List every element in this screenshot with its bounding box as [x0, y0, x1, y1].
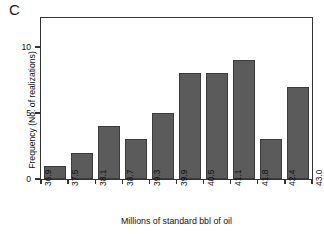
x-tick-mark: [149, 180, 150, 184]
x-tick-mark: [203, 180, 204, 184]
x-tick-label: 38.7: [126, 170, 134, 186]
panel-label-c: C: [9, 2, 20, 17]
x-tick-label: 36.9: [44, 170, 52, 186]
x-axis-title: Millions of standard bbl of oil: [40, 216, 313, 226]
x-tick-mark: [95, 180, 96, 184]
x-tick-mark: [284, 180, 285, 184]
x-tick-mark: [311, 180, 312, 184]
x-tick-label: 39.9: [180, 170, 188, 186]
histogram-bar: [233, 60, 255, 179]
x-tick-mark: [257, 180, 258, 184]
histogram-bar: [287, 87, 309, 179]
histogram-bar: [206, 73, 228, 179]
x-tick-label: 37.5: [71, 170, 79, 186]
x-tick-mark: [230, 180, 231, 184]
y-tick-label: 5: [5, 109, 31, 118]
x-tick-label: 42.4: [288, 170, 296, 186]
histogram-bar: [179, 73, 201, 179]
y-tick-label: 10: [5, 43, 31, 52]
x-tick-label: 41.8: [261, 170, 269, 186]
bars-layer: [41, 18, 312, 179]
x-tick-label: 43.0: [315, 170, 323, 186]
x-tick-mark: [67, 180, 68, 184]
x-tick-mark: [176, 180, 177, 184]
y-tick-label: 0: [5, 175, 31, 184]
x-tick-label: 41.1: [234, 170, 242, 186]
x-tick-label: 38.1: [99, 170, 107, 186]
x-tick-mark: [122, 180, 123, 184]
x-tick-mark: [40, 180, 41, 184]
x-tick-label: 40.5: [207, 170, 215, 186]
x-tick-label: 39.3: [153, 170, 161, 186]
